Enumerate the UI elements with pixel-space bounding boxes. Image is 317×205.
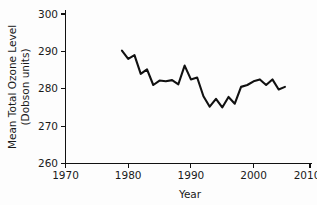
y-axis-ticks bbox=[61, 14, 66, 164]
x-axis-title: Year bbox=[178, 188, 202, 200]
y-tick-label-260: 260 bbox=[38, 157, 58, 169]
x-tick-label-1980: 1980 bbox=[115, 169, 142, 181]
x-tick-label-1970: 1970 bbox=[52, 169, 79, 181]
x-axis-tick-labels: 1970 1980 1990 2000 2010 bbox=[52, 169, 317, 181]
x-axis-group: 1970 1980 1990 2000 2010 Year bbox=[52, 164, 317, 201]
y-axis-title-line1: Mean Total Ozone Level bbox=[6, 25, 18, 149]
ozone-line-chart-figure: 260 270 280 290 300 Mean Total Ozone Lev… bbox=[0, 0, 317, 205]
x-axis-ticks bbox=[66, 164, 311, 169]
y-axis-group: 260 270 280 290 300 Mean Total Ozone Lev… bbox=[6, 8, 66, 169]
chart-canvas: 260 270 280 290 300 Mean Total Ozone Lev… bbox=[0, 0, 317, 205]
y-axis-title: Mean Total Ozone Level (Dobson units) bbox=[6, 25, 31, 149]
data-series-group bbox=[122, 51, 285, 108]
y-tick-label-290: 290 bbox=[38, 45, 58, 57]
y-axis-tick-labels: 260 270 280 290 300 bbox=[38, 8, 58, 169]
ozone-series-line bbox=[122, 51, 285, 108]
y-tick-label-280: 280 bbox=[38, 82, 58, 94]
y-axis-title-line2: (Dobson units) bbox=[19, 48, 31, 125]
y-tick-label-270: 270 bbox=[38, 120, 58, 132]
x-tick-label-2010: 2010 bbox=[294, 169, 317, 181]
y-tick-label-300: 300 bbox=[38, 8, 58, 20]
x-tick-label-2000: 2000 bbox=[240, 169, 267, 181]
x-tick-label-1990: 1990 bbox=[178, 169, 205, 181]
